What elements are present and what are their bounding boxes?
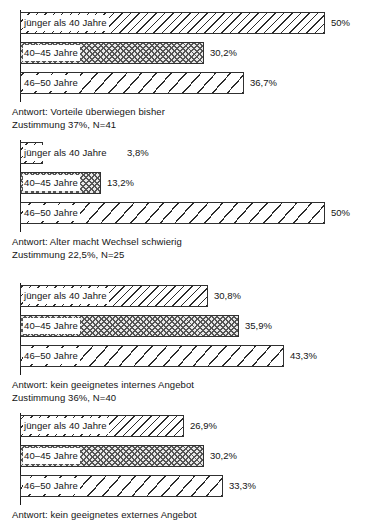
bar-value-p3-under40: 30,8% bbox=[214, 285, 241, 307]
panel-1-caption-stats: Zustimmung 37%, N=41 bbox=[12, 119, 116, 130]
bar-value-p1-46to50: 36,7% bbox=[250, 72, 277, 94]
bar-label-p4-46to50: 46–50 Jahre bbox=[23, 478, 80, 494]
bar-label-p3-40to45: 40–45 Jahre bbox=[23, 318, 80, 334]
bar-label-p3-under40: jünger als 40 Jahre bbox=[23, 288, 109, 304]
panel-4-caption-answer: Antwort: kein geeignetes externes Angebo… bbox=[12, 509, 197, 520]
bar-label-p1-46to50: 46–50 Jahre bbox=[23, 75, 80, 91]
bar-label-p3-46to50: 46–50 Jahre bbox=[23, 348, 80, 364]
bar-label-p2-under40: jünger als 40 Jahre bbox=[23, 145, 109, 161]
bar-value-p1-40to45: 30,2% bbox=[210, 42, 237, 64]
panel-1-caption-answer: Antwort: Vorteile überwiegen bisher bbox=[12, 106, 165, 117]
bar-value-p4-40to45: 30,2% bbox=[210, 445, 237, 467]
panel-2-caption-answer: Antwort: Alter macht Wechsel schwierig bbox=[12, 236, 182, 247]
panel-3-caption-stats: Zustimmung 36%, N=40 bbox=[12, 392, 116, 403]
bar-value-p4-under40: 26,9% bbox=[190, 415, 217, 437]
bar-value-p3-40to45: 35,9% bbox=[245, 315, 272, 337]
bar-value-p4-46to50: 33,3% bbox=[229, 475, 256, 497]
bar-value-p2-46to50: 50% bbox=[331, 202, 350, 224]
bar-label-p2-46to50: 46–50 Jahre bbox=[23, 205, 80, 221]
bar-label-p1-40to45: 40–45 Jahre bbox=[23, 45, 80, 61]
panel-3-caption-answer: Antwort: kein geeignetes internes Angebo… bbox=[12, 379, 194, 390]
bar-label-p4-40to45: 40–45 Jahre bbox=[23, 448, 80, 464]
bar-value-p1-under40: 50% bbox=[331, 12, 350, 34]
bar-value-p2-40to45: 13,2% bbox=[107, 172, 134, 194]
bar-label-p4-under40: jünger als 40 Jahre bbox=[23, 418, 109, 434]
panel-2-caption-stats: Zustimmung 22,5%, N=25 bbox=[12, 249, 124, 260]
bar-label-p1-under40: jünger als 40 Jahre bbox=[23, 15, 109, 31]
bar-value-p3-46to50: 43,3% bbox=[290, 345, 317, 367]
bar-value-p2-under40: 3,8% bbox=[127, 142, 149, 164]
bar-label-p2-40to45: 40–45 Jahre bbox=[23, 175, 80, 191]
